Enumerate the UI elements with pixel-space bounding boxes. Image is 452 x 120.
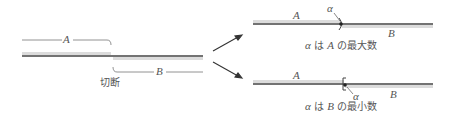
arrow-up-icon (213, 35, 242, 51)
top-caption: α は A の最大数 (305, 40, 377, 51)
top-label-a: A (293, 10, 300, 21)
dedekind-cut-diagram (0, 0, 452, 120)
label-cut: 切断 (100, 78, 120, 88)
top-number-line (253, 20, 433, 28)
caption-text: の最小数 (334, 101, 377, 112)
bottom-caption: α は B の最小数 (305, 101, 377, 112)
caption-text: の最大数 (334, 40, 377, 51)
bottom-label-b: B (390, 89, 397, 100)
top-label-alpha: α (327, 3, 333, 14)
caption-set: A (327, 39, 334, 51)
caption-particle: は (311, 40, 327, 51)
caption-set: B (327, 100, 334, 112)
label-set-a: A (63, 34, 70, 45)
label-set-b: B (156, 66, 163, 77)
caption-particle: は (311, 101, 327, 112)
arrow-down-icon (213, 62, 242, 78)
left-number-line (22, 52, 203, 60)
bottom-label-a: A (293, 70, 300, 81)
top-label-b: B (388, 28, 395, 39)
